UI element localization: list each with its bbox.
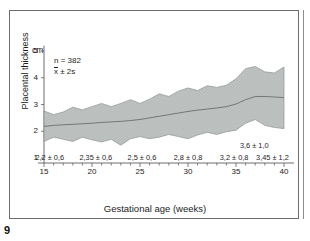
x-tick-label: 20 (82, 168, 102, 176)
page-number: 9 (4, 224, 10, 236)
value-annotation: 3,45 ± 1,2 (252, 154, 292, 162)
x-tick-label: 25 (130, 168, 150, 176)
chart-plot-area: cm Placental thickness Gestational age (… (10, 11, 300, 220)
confidence-band (44, 67, 284, 146)
y-tick-label: 5 (26, 47, 38, 55)
value-annotation: 2,5 ± 0,6 (122, 154, 162, 162)
x-tick-label: 15 (34, 168, 54, 176)
data-group (44, 67, 284, 146)
x-tick-label: 30 (178, 168, 198, 176)
value-annotation: 2,35 ± 0,6 (76, 154, 116, 162)
figure-frame: cm Placental thickness Gestational age (… (9, 10, 299, 219)
value-annotation: 3,6 ± 1,0 (234, 142, 274, 150)
x-tick-label: 40 (274, 168, 294, 176)
value-annotation: 3,2 ± 0,8 (214, 154, 254, 162)
y-tick-label: 2 (26, 127, 38, 135)
chart-svg (10, 11, 300, 220)
y-tick-label: 3 (26, 101, 38, 109)
page-edge-rule (303, 10, 304, 219)
x-axis-ticks (44, 163, 284, 167)
y-tick-label: 4 (26, 74, 38, 82)
value-annotation: 2,2 ± 0,6 (30, 154, 70, 162)
value-annotation: 2,8 ± 0,8 (168, 154, 208, 162)
x-tick-label: 35 (226, 168, 246, 176)
